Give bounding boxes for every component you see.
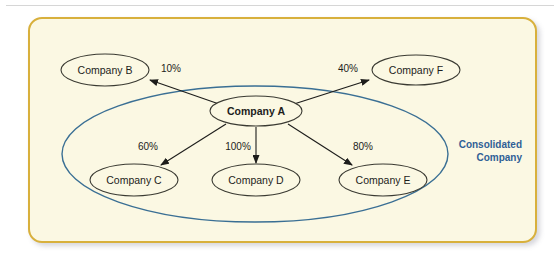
diagram-page: 10% 40% 60% 100% 80% Company A Company B… (0, 0, 560, 262)
top-divider-rule (6, 5, 554, 6)
diagram-panel (28, 17, 537, 243)
